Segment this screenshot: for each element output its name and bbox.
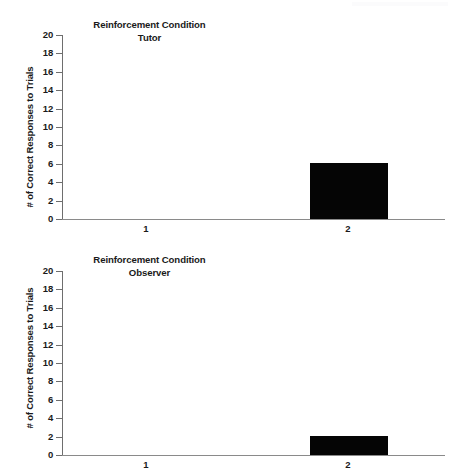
y-tick-0: 0 [56, 455, 62, 456]
y-tick-label: 6 [48, 394, 53, 405]
y-tick-18: 18 [56, 53, 62, 54]
chart-panel-tutor: # of Correct Responses to Trials Reinfor… [0, 0, 462, 240]
y-tick-0: 0 [56, 219, 62, 220]
y-tick-20: 20 [56, 35, 62, 36]
x-tick-label-1: 1 [143, 223, 148, 234]
x-tick-label-2: 2 [345, 459, 350, 470]
y-tick-6: 6 [56, 400, 62, 401]
y-tick-2: 2 [56, 201, 62, 202]
plot-area-tutor: 20 18 16 14 12 10 8 6 4 2 0 1 2 [62, 35, 445, 220]
plot-area-observer: 20 18 16 14 12 10 8 6 4 2 0 1 2 [62, 271, 445, 456]
y-tick-20: 20 [56, 271, 62, 272]
y-tick-12: 12 [56, 109, 62, 110]
x-tick-label-2: 2 [345, 223, 350, 234]
chart-panel-observer: # of Correct Responses to Trials Reinfor… [0, 240, 462, 473]
y-tick-2: 2 [56, 437, 62, 438]
y-tick-8: 8 [56, 381, 62, 382]
y-tick-18: 18 [56, 289, 62, 290]
y-tick-label: 0 [48, 213, 53, 224]
y-tick-label: 0 [48, 449, 53, 460]
y-tick-label: 16 [43, 66, 53, 77]
y-tick-label: 20 [43, 265, 53, 276]
y-axis-line [62, 271, 63, 456]
x-axis-line [62, 455, 445, 456]
y-axis-title-tutor: # of Correct Responses to Trials [24, 27, 35, 247]
y-axis-line [62, 35, 63, 220]
y-tick-label: 2 [48, 195, 53, 206]
plot-title-line1: Reinforcement Condition [93, 19, 205, 30]
y-tick-label: 4 [48, 176, 53, 187]
y-tick-label: 16 [43, 302, 53, 313]
y-tick-label: 12 [43, 103, 53, 114]
y-tick-4: 4 [56, 418, 62, 419]
y-tick-label: 14 [43, 320, 53, 331]
y-tick-label: 4 [48, 412, 53, 423]
y-tick-label: 18 [43, 283, 53, 294]
bar-tutor-category-2 [310, 163, 388, 218]
y-tick-label: 10 [43, 121, 53, 132]
y-tick-8: 8 [56, 145, 62, 146]
y-tick-label: 14 [43, 84, 53, 95]
y-axis-title-observer: # of Correct Responses to Trials [24, 248, 35, 468]
y-tick-16: 16 [56, 72, 62, 73]
x-tick-label-1: 1 [143, 459, 148, 470]
y-tick-10: 10 [56, 363, 62, 364]
y-tick-label: 8 [48, 375, 53, 386]
y-tick-10: 10 [56, 127, 62, 128]
y-tick-12: 12 [56, 345, 62, 346]
y-tick-label: 12 [43, 339, 53, 350]
y-tick-label: 20 [43, 29, 53, 40]
x-axis-line [62, 219, 445, 220]
y-tick-4: 4 [56, 182, 62, 183]
y-tick-14: 14 [56, 90, 62, 91]
y-tick-label: 18 [43, 47, 53, 58]
plot-title-line1: Reinforcement Condition [93, 254, 205, 265]
y-tick-6: 6 [56, 164, 62, 165]
y-tick-label: 6 [48, 158, 53, 169]
y-tick-label: 8 [48, 139, 53, 150]
y-tick-label: 2 [48, 431, 53, 442]
bar-observer-category-2 [310, 436, 388, 454]
y-tick-14: 14 [56, 326, 62, 327]
y-tick-16: 16 [56, 308, 62, 309]
y-tick-label: 10 [43, 357, 53, 368]
